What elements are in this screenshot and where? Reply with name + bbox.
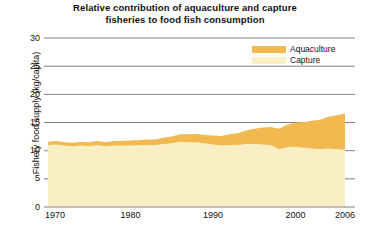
chart-plot-area <box>0 0 370 228</box>
legend-swatch-capture <box>252 57 286 64</box>
y-tick-label-25: 25 <box>22 62 40 71</box>
chart-figure: Relative contribution of aquaculture and… <box>0 0 370 228</box>
legend-label-capture: Capture <box>290 55 320 66</box>
legend-item-aquaculture: Aquaculture <box>252 44 335 55</box>
x-tick-label-2006: 2006 <box>325 211 365 220</box>
y-tick-label-20: 20 <box>22 90 40 99</box>
chart-legend: Aquaculture Capture <box>252 44 335 66</box>
x-tick-label-2000: 2000 <box>276 211 316 220</box>
x-tick-marks <box>44 38 48 207</box>
area-series-group <box>48 113 345 207</box>
legend-item-capture: Capture <box>252 55 335 66</box>
legend-swatch-aquaculture <box>252 46 286 53</box>
x-tick-label-1980: 1980 <box>111 211 151 220</box>
y-tick-label-10: 10 <box>22 146 40 155</box>
legend-label-aquaculture: Aquaculture <box>290 44 335 55</box>
x-tick-label-1970: 1970 <box>45 211 85 220</box>
x-tick-label-1990: 1990 <box>193 211 233 220</box>
area-capture <box>48 142 345 207</box>
y-tick-label-5: 5 <box>22 174 40 183</box>
y-tick-label-0: 0 <box>22 203 40 212</box>
y-tick-label-15: 15 <box>22 118 40 127</box>
y-tick-label-30: 30 <box>22 34 40 43</box>
